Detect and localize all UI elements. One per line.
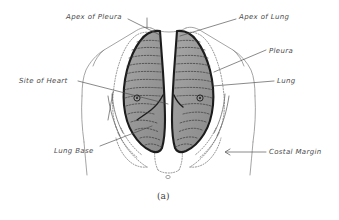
anatomical-figure-thorax: Apex of Pleura Apex of Lung Pleura Site … <box>0 0 339 220</box>
lung-pleura-illustration <box>0 0 339 220</box>
figure-caption: (a) <box>157 192 169 201</box>
label-site-of-heart: Site of Heart <box>19 78 68 85</box>
label-lung-base: Lung Base <box>54 148 94 155</box>
label-lung: Lung <box>277 78 296 85</box>
left-lung-shape <box>124 31 165 152</box>
label-costal-margin: Costal Margin <box>269 149 322 156</box>
leader-pleura <box>214 50 266 72</box>
label-apex-of-pleura: Apex of Pleura <box>66 14 122 21</box>
right-lung-shape <box>172 31 213 152</box>
torso-outline <box>82 27 256 175</box>
label-apex-of-lung: Apex of Lung <box>239 14 289 21</box>
midline-mark <box>166 175 170 178</box>
label-pleura: Pleura <box>269 48 293 55</box>
